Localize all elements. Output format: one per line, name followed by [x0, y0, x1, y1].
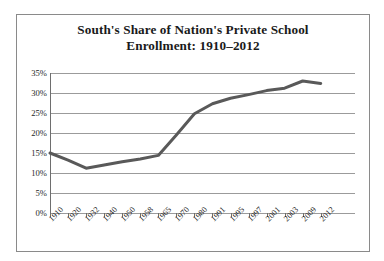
- y-axis-tick-label: 0%: [36, 208, 47, 218]
- x-axis-tick-labels: 1910192019321940195019581965197019801991…: [50, 217, 370, 253]
- y-axis-tick-label: 20%: [31, 128, 47, 138]
- chart-figure: South's Share of Nation's Private School…: [16, 14, 370, 252]
- y-axis-tick-label: 35%: [31, 68, 47, 78]
- y-axis-tick-label: 15%: [31, 148, 47, 158]
- chart-title-line-2: Enrollment: 1910–2012: [17, 38, 369, 54]
- y-axis-tick-labels: 0%5%10%15%20%25%30%35%: [17, 73, 47, 213]
- y-axis-tick-label: 5%: [36, 188, 47, 198]
- y-axis-tick-label: 25%: [31, 108, 47, 118]
- plot-area: [50, 73, 355, 213]
- y-axis-tick-label: 10%: [31, 168, 47, 178]
- chart-title: South's Share of Nation's Private School…: [17, 22, 369, 54]
- series-line: [50, 73, 355, 213]
- y-axis-tick-label: 30%: [31, 88, 47, 98]
- chart-title-line-1: South's Share of Nation's Private School: [17, 22, 369, 38]
